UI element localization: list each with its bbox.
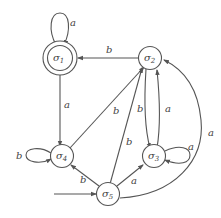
- edge-s4-loop: [26, 149, 51, 163]
- edge-s4-s2: [70, 67, 144, 148]
- state-s1-subscript: 1: [60, 57, 64, 65]
- edge-s5-s2: [110, 68, 142, 184]
- state-s2-subscript: 2: [150, 57, 156, 65]
- label-s1-loop: a: [70, 17, 76, 28]
- state-s3: σ3: [143, 145, 166, 168]
- state-s2: σ2: [139, 47, 162, 70]
- state-s5-subscript: 5: [109, 193, 114, 201]
- label-s1-s4: a: [64, 99, 70, 110]
- state-s4: σ4: [51, 145, 74, 168]
- state-s3-subscript: 3: [155, 155, 160, 163]
- label-s5-s4: b: [80, 174, 86, 185]
- edge-s3-s2: [157, 70, 159, 148]
- edge-s5-s3: [117, 165, 143, 186]
- label-s2-s1: b: [106, 44, 112, 55]
- label-s4-loop: b: [16, 150, 22, 161]
- edge-s3-loop: [165, 147, 190, 163]
- label-s4-s2: b: [113, 105, 119, 116]
- label-s5-s2: b: [126, 136, 132, 147]
- state-diagram: a b a b b b a a b b a a σ1 σ2 σ3: [0, 0, 221, 218]
- state-s1: σ1: [43, 41, 77, 75]
- state-s4-subscript: 4: [62, 155, 67, 163]
- label-s2-s3: b: [137, 103, 143, 114]
- label-s3-loop: a: [188, 141, 194, 152]
- edge-s1-loop: [51, 13, 68, 45]
- label-s5-s2-curve: a: [208, 127, 214, 138]
- edge-s2-s3: [145, 69, 150, 148]
- label-s3-s2: a: [165, 103, 171, 114]
- state-s5: σ5: [97, 183, 120, 206]
- label-s5-s3: a: [131, 175, 137, 186]
